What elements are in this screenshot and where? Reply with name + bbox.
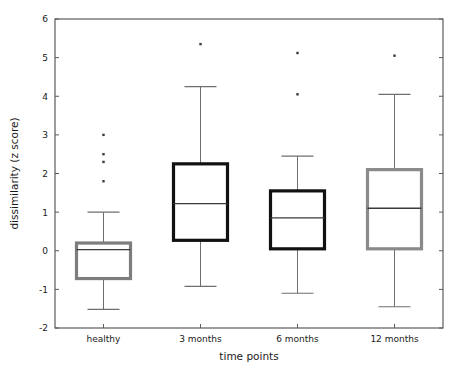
- y-tick-label: -1: [39, 285, 48, 295]
- outlier-point: [102, 161, 104, 163]
- outlier-point: [102, 134, 104, 136]
- x-axis-title: time points: [219, 350, 278, 362]
- y-tick-label: 5: [42, 53, 48, 63]
- y-tick-label: 3: [42, 130, 48, 140]
- outlier-point: [393, 54, 395, 56]
- boxplot-figure: -2-10123456healthy3 months6 months12 mon…: [0, 0, 463, 381]
- box-iqr: [77, 243, 131, 279]
- outlier-point: [296, 52, 298, 54]
- x-tick-label: healthy: [87, 334, 121, 344]
- outlier-point: [199, 43, 201, 45]
- y-axis-title: dissimilarity (z score): [8, 117, 20, 229]
- outlier-point: [102, 153, 104, 155]
- x-tick-label: 6 months: [276, 334, 319, 344]
- y-tick-label: 2: [42, 169, 48, 179]
- outlier-point: [296, 93, 298, 95]
- x-tick-label: 3 months: [179, 334, 222, 344]
- x-tick-label: 12 months: [370, 334, 419, 344]
- box-iqr: [271, 191, 325, 249]
- box-iqr: [174, 164, 228, 240]
- box-iqr: [368, 170, 422, 249]
- y-tick-label: 0: [42, 246, 48, 256]
- y-tick-label: 1: [42, 208, 48, 218]
- y-tick-label: -2: [39, 323, 48, 333]
- outlier-point: [102, 180, 104, 182]
- plot-canvas: -2-10123456healthy3 months6 months12 mon…: [0, 0, 463, 381]
- y-tick-label: 6: [42, 14, 48, 24]
- y-tick-label: 4: [42, 92, 48, 102]
